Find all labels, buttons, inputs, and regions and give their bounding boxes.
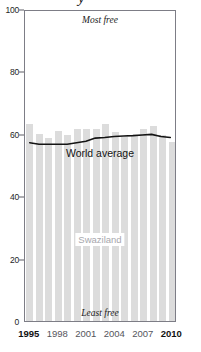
economic-freedom-chart: y 020406080100 Most free Least free Worl… <box>0 0 201 352</box>
y-tick-label: 20 <box>10 255 19 265</box>
series-label-world-average: World average <box>66 147 134 159</box>
x-axis: 199519982001200420072010 <box>24 325 176 352</box>
y-tick-label: 0 <box>14 317 19 327</box>
cropped-title-descender: y <box>78 0 85 6</box>
y-axis: 020406080100 <box>0 0 24 352</box>
annotation-most-free: Most free <box>82 15 118 25</box>
x-tick-label: 1995 <box>18 328 39 339</box>
series-label-swaziland: Swaziland <box>75 233 124 246</box>
x-tick-label: 2001 <box>75 328 96 339</box>
x-tick-label: 2010 <box>161 328 182 339</box>
x-tick-label: 1998 <box>47 328 68 339</box>
x-tick-label: 2007 <box>132 328 153 339</box>
y-tick-label: 100 <box>5 5 19 15</box>
y-tick-label: 60 <box>10 130 19 140</box>
annotation-least-free: Least free <box>81 308 118 318</box>
y-tick-label: 80 <box>10 67 19 77</box>
plot-area: Most free Least free World average Swazi… <box>24 10 176 322</box>
x-tick-label: 2004 <box>104 328 125 339</box>
world-average-line <box>25 11 175 321</box>
y-tick-label: 40 <box>10 192 19 202</box>
